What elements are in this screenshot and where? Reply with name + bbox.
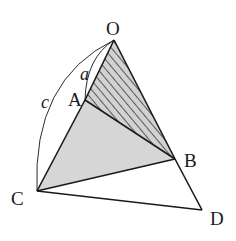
label-arc-a: a: [80, 64, 89, 84]
label-A: A: [68, 89, 82, 110]
geometry-diagram: O A B C D a c: [0, 0, 236, 241]
label-arc-c: c: [41, 92, 49, 112]
label-B: B: [184, 150, 197, 171]
label-O: O: [106, 18, 120, 39]
label-C: C: [11, 188, 24, 209]
segment-CD: [37, 191, 202, 210]
label-D: D: [210, 208, 224, 229]
